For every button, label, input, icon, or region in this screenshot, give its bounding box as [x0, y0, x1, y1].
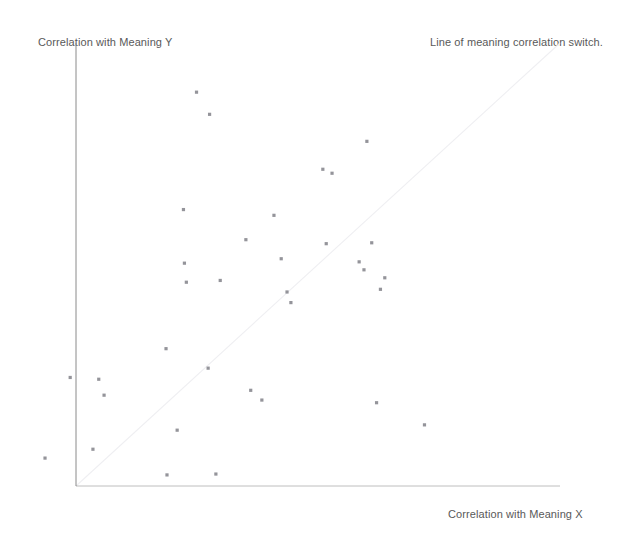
data-point [330, 172, 333, 175]
data-point [102, 394, 105, 397]
data-point [358, 260, 361, 263]
data-point [182, 208, 185, 211]
data-point [244, 238, 247, 241]
plot-canvas [0, 0, 626, 546]
data-point [362, 268, 365, 271]
data-point [285, 290, 288, 293]
data-point [185, 281, 188, 284]
data-point [195, 91, 198, 94]
data-point [183, 262, 186, 265]
reference-line [76, 43, 560, 486]
data-point [91, 448, 94, 451]
data-point [164, 347, 167, 350]
data-point-layer [43, 91, 426, 477]
data-point [176, 429, 179, 432]
data-point [208, 113, 211, 116]
data-point [383, 276, 386, 279]
data-point [370, 241, 373, 244]
data-point [289, 301, 292, 304]
data-point [214, 472, 217, 475]
data-point [249, 389, 252, 392]
data-point [325, 242, 328, 245]
data-point [365, 140, 368, 143]
data-point [272, 214, 275, 217]
data-point [321, 168, 324, 171]
data-point [219, 279, 222, 282]
data-point [260, 398, 263, 401]
data-point [423, 423, 426, 426]
data-point [43, 456, 46, 459]
data-point [375, 401, 378, 404]
data-point [280, 257, 283, 260]
data-point [165, 473, 168, 476]
data-point [207, 367, 210, 370]
data-point [69, 376, 72, 379]
scatter-plot-figure: Correlation with Meaning Y Line of meani… [0, 0, 626, 546]
data-point [97, 378, 100, 381]
identity-reference-line [76, 43, 560, 486]
data-point [379, 288, 382, 291]
